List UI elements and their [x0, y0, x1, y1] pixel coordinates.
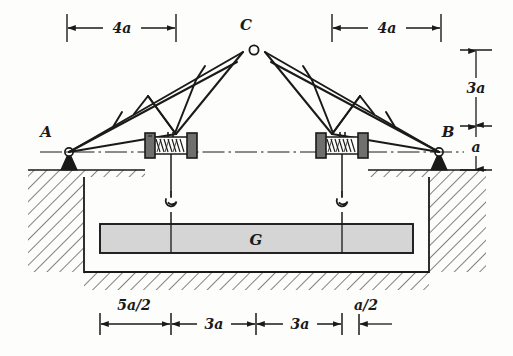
drum-flange-right [187, 133, 197, 158]
drum-flange-left [145, 133, 155, 158]
dimension-label-a-2: a/2 [354, 297, 378, 313]
dimension-label-3a-second: 3a [291, 316, 310, 332]
label-point-a: A [38, 123, 52, 141]
dimension-label-a-vertical: a [471, 139, 480, 155]
dimension-label-5a-2: 5a/2 [117, 297, 151, 313]
drum-flange-left [316, 133, 326, 158]
dimension-label-4a-left: 4a [113, 20, 132, 36]
dimension-label-4a-right: 4a [378, 20, 397, 36]
crane-truss-figure: G A B C 4a 4a 3a a [0, 0, 513, 356]
diagram-canvas: G A B C 4a 4a 3a a [0, 0, 513, 356]
pin-joint-c [249, 45, 258, 54]
dimension-label-3a-vertical: 3a [467, 80, 486, 96]
label-point-c: C [240, 16, 252, 34]
label-point-b: B [441, 123, 455, 141]
load-label: G [250, 231, 263, 249]
drum-flange-right [358, 133, 368, 158]
dimension-label-3a-first: 3a [205, 316, 224, 332]
